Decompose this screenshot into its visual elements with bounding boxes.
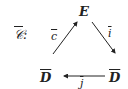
edge-label-c: c (51, 31, 57, 42)
arrows (0, 0, 128, 89)
edge-label-i: i (108, 28, 112, 39)
edge-label-j: j (80, 78, 83, 89)
